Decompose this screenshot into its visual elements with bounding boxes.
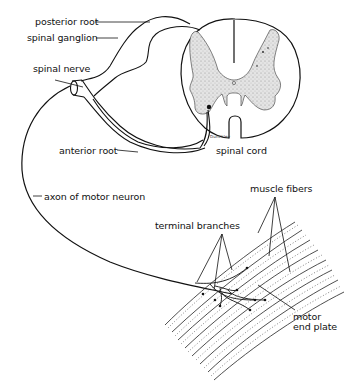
diagram-canvas: posterior root spinal ganglion spinal ne…: [0, 0, 349, 387]
gray-matter: [190, 30, 281, 114]
label-terminal-branches: terminal branches: [155, 221, 240, 231]
axon-of-motor-neuron: [22, 86, 232, 294]
label-spinal-ganglion: spinal ganglion: [27, 33, 98, 43]
label-muscle-fibers: muscle fibers: [250, 184, 312, 194]
label-axon-of-motor-neuron: axon of motor neuron: [44, 192, 145, 202]
label-spinal-nerve: spinal nerve: [33, 64, 90, 74]
label-spinal-cord: spinal cord: [216, 146, 267, 156]
label-end-plate: end plate: [293, 322, 337, 332]
label-anterior-root: anterior root: [59, 146, 117, 156]
motor-neuron-cell-body: [207, 105, 211, 109]
spinal-nerve: [71, 80, 85, 97]
label-posterior-root: posterior root: [35, 17, 98, 27]
artist-signature: Dunckley: [210, 134, 230, 139]
